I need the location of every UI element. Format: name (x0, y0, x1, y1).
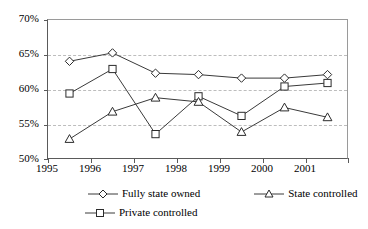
data-point (151, 69, 159, 77)
data-point (194, 70, 202, 78)
series-fully-state-owned (65, 49, 331, 83)
data-point (238, 112, 245, 119)
line-chart: 70% 65% 60% 55% 50% 1995 1996 1997 (0, 0, 368, 229)
series-layer (48, 20, 349, 160)
plot-area (47, 19, 348, 159)
data-point (108, 49, 116, 57)
legend-item-fully-state-owned[interactable]: Fully state owned (88, 188, 200, 200)
data-point (66, 90, 73, 97)
legend-label: Private controlled (119, 207, 198, 218)
data-point (65, 135, 74, 143)
x-axis-tick-label: 2001 (277, 162, 333, 174)
chart-legend: Fully state owned State controlled (0, 184, 368, 222)
data-point (237, 74, 245, 82)
data-point (324, 79, 331, 86)
data-point (323, 70, 331, 78)
data-point (109, 65, 116, 72)
legend-item-state-controlled[interactable]: State controlled (254, 188, 357, 200)
legend-item-private-controlled[interactable]: Private controlled (85, 207, 198, 219)
series-state-controlled (65, 93, 332, 142)
y-axis-tick-label: 55% (3, 118, 39, 129)
y-axis-tick-label: 70% (3, 13, 39, 24)
data-point (152, 131, 159, 138)
data-point (237, 128, 246, 136)
legend-row-2: Private controlled (0, 203, 368, 222)
data-point (65, 57, 73, 65)
data-point (280, 74, 288, 82)
y-axis-tick-label: 65% (3, 48, 39, 59)
diamond-marker-icon (88, 188, 118, 200)
data-point (281, 83, 288, 90)
legend-label: State controlled (288, 188, 357, 199)
y-axis-tick-label: 60% (3, 83, 39, 94)
square-marker-icon (85, 207, 115, 219)
legend-row-1: Fully state owned State controlled (0, 184, 368, 203)
data-point (280, 103, 289, 111)
legend-label: Fully state owned (122, 188, 200, 199)
triangle-marker-icon (254, 188, 284, 200)
data-point (151, 93, 160, 101)
